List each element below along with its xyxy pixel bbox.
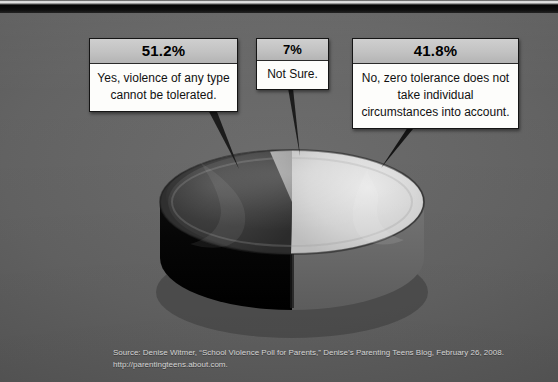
source-line-2: http://parentingteens.about.com. — [113, 359, 533, 371]
source-line-1: Source: Denise Witmer, “School Violence … — [113, 348, 504, 357]
slide-canvas: 51.2% Yes, violence of any type cannot b… — [0, 0, 558, 382]
callout-percent-no: 41.8% — [353, 39, 518, 64]
callout-box-not-sure[interactable]: 7% Not Sure. — [256, 38, 329, 90]
callout-text-not-sure: Not Sure. — [257, 61, 328, 89]
callout-percent-not-sure: 7% — [257, 39, 328, 61]
callout-text-no: No, zero tolerance does not take individ… — [353, 64, 518, 128]
callout-text-yes: Yes, violence of any type cannot be tole… — [90, 64, 237, 111]
source-citation: Source: Denise Witmer, “School Violence … — [113, 347, 533, 370]
callout-box-yes[interactable]: 51.2% Yes, violence of any type cannot b… — [89, 38, 238, 112]
callout-box-no[interactable]: 41.8% No, zero tolerance does not take i… — [352, 38, 519, 129]
leader-line-not-sure — [288, 88, 300, 156]
leader-line-yes — [205, 104, 239, 169]
callout-percent-yes: 51.2% — [90, 39, 237, 64]
